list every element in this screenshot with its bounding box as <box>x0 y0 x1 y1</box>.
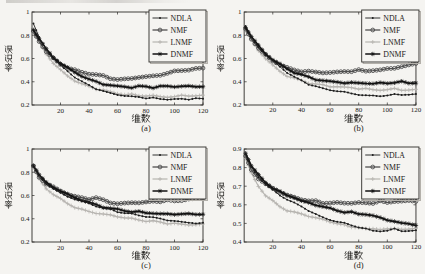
legend-label: NDLA <box>383 14 405 23</box>
x-tick-label: 120 <box>198 107 209 115</box>
subplot-label: (b) <box>354 123 364 133</box>
subplot-c: 204060801001200.20.40.60.81(c)NDLANMFLNM… <box>0 137 212 274</box>
legend: NDLANMFLNMFDNMF <box>362 147 421 201</box>
hanzi-35782 <box>5 192 11 199</box>
hanzi-32500 <box>132 114 140 122</box>
y-tick-label: 0.4 <box>21 78 30 86</box>
hanzi-29575 <box>217 64 224 72</box>
subplot-c-canvas: 204060801001200.20.40.60.81(c)NDLANMFLNM… <box>0 137 212 274</box>
legend-label: DNMF <box>383 187 406 196</box>
y-tick-label: 0.2 <box>21 238 30 246</box>
legend-label: NDLA <box>171 151 193 160</box>
y-tick-label: 0.2 <box>21 101 30 109</box>
hanzi-35782 <box>217 192 223 199</box>
legend-label: LNMF <box>171 38 193 47</box>
x-tick-label: 60 <box>114 244 122 252</box>
x-tick-label: 60 <box>114 107 122 115</box>
x-tick-label: 40 <box>298 107 306 115</box>
x-tick-label: 100 <box>169 107 180 115</box>
subplot-label: (d) <box>354 260 364 270</box>
x-tick-label: 120 <box>198 244 209 252</box>
y-tick-label: 0.2 <box>233 101 242 109</box>
legend-label: LNMF <box>383 38 405 47</box>
legend-label: NDLA <box>383 151 405 160</box>
legend-label: NMF <box>383 26 401 35</box>
subplot-a: 204060801001200.20.40.60.81(a)NDLANMFLNM… <box>0 0 212 137</box>
legend: NDLANMFLNMFDNMF <box>149 147 208 201</box>
legend-label: NMF <box>171 26 189 35</box>
subplot-d-canvas: 204060801001200.40.50.60.70.80.9(d)NDLAN… <box>212 137 425 274</box>
y-tick-label: 0.7 <box>233 183 242 191</box>
x-tick-label: 120 <box>411 244 422 252</box>
hanzi-32500 <box>132 251 140 259</box>
hanzi-35782 <box>217 55 223 62</box>
y-tick-label: 0.4 <box>233 238 242 246</box>
hanzi-35782 <box>5 55 11 62</box>
hanzi-35823 <box>5 46 12 53</box>
subplot-a-canvas: 204060801001200.20.40.60.81(a)NDLANMFLNM… <box>0 0 212 137</box>
y-tick-label: 1 <box>26 8 30 16</box>
legend-label: DNMF <box>383 50 406 59</box>
x-axis-label <box>132 114 149 122</box>
legend-label: NDLA <box>171 14 193 23</box>
y-tick-label: 0.8 <box>21 32 30 40</box>
x-axis-label <box>345 114 362 122</box>
x-axis-label <box>132 251 149 259</box>
y-tick-label: 0.4 <box>233 78 242 86</box>
x-tick-label: 80 <box>143 244 151 252</box>
x-tick-label: 120 <box>411 107 422 115</box>
subplot-label: (a) <box>141 123 151 133</box>
hanzi-29575 <box>5 201 12 209</box>
y-axis-label <box>5 183 12 208</box>
y-tick-label: 0.6 <box>233 55 242 63</box>
subplot-d: 204060801001200.40.50.60.70.80.9(d)NDLAN… <box>212 137 425 274</box>
y-tick-label: 0.8 <box>233 32 242 40</box>
hanzi-25968 <box>142 114 150 122</box>
legend-label: NMF <box>171 163 189 172</box>
x-tick-label: 80 <box>355 244 363 252</box>
y-axis-label <box>217 183 224 208</box>
x-tick-label: 60 <box>327 244 335 252</box>
y-axis-label <box>217 46 224 71</box>
figure: 204060801001200.20.40.60.81(a)NDLANMFLNM… <box>0 0 425 274</box>
x-tick-label: 80 <box>143 107 151 115</box>
y-axis-label <box>5 46 12 71</box>
y-tick-label: 1 <box>26 145 30 153</box>
x-tick-label: 40 <box>298 244 306 252</box>
x-tick-label: 40 <box>86 107 94 115</box>
hanzi-32500 <box>345 251 353 259</box>
y-tick-label: 0.6 <box>233 201 242 209</box>
y-tick-label: 0.9 <box>233 145 242 153</box>
y-tick-label: 1 <box>238 8 242 16</box>
legend: NDLANMFLNMFDNMF <box>362 10 421 64</box>
x-tick-label: 20 <box>57 107 65 115</box>
x-tick-label: 20 <box>269 107 277 115</box>
hanzi-35823 <box>217 46 224 53</box>
legend: NDLANMFLNMFDNMF <box>149 10 208 64</box>
hanzi-29575 <box>217 201 224 209</box>
y-tick-label: 0.5 <box>233 220 242 228</box>
legend-label: LNMF <box>383 175 405 184</box>
hanzi-25968 <box>355 114 363 122</box>
legend-label: LNMF <box>171 175 193 184</box>
y-tick-label: 0.4 <box>21 215 30 223</box>
hanzi-25968 <box>355 251 363 259</box>
x-tick-label: 20 <box>57 244 65 252</box>
x-tick-label: 100 <box>169 244 180 252</box>
subplot-label: (c) <box>141 260 151 270</box>
y-tick-label: 0.8 <box>233 164 242 172</box>
hanzi-25968 <box>142 251 150 259</box>
hanzi-35823 <box>217 183 224 190</box>
y-tick-label: 0.6 <box>21 192 30 200</box>
legend-label: DNMF <box>171 187 194 196</box>
hanzi-35823 <box>5 183 12 190</box>
subplot-b: 204060801001200.20.40.60.81(b)NDLANMFLNM… <box>212 0 425 137</box>
x-tick-label: 20 <box>269 244 277 252</box>
subplot-b-canvas: 204060801001200.20.40.60.81(b)NDLANMFLNM… <box>212 0 425 137</box>
x-tick-label: 60 <box>327 107 335 115</box>
x-axis-label <box>345 251 362 259</box>
x-tick-label: 40 <box>86 244 94 252</box>
hanzi-29575 <box>5 64 12 72</box>
legend-label: NMF <box>383 163 401 172</box>
y-tick-label: 0.8 <box>21 169 30 177</box>
